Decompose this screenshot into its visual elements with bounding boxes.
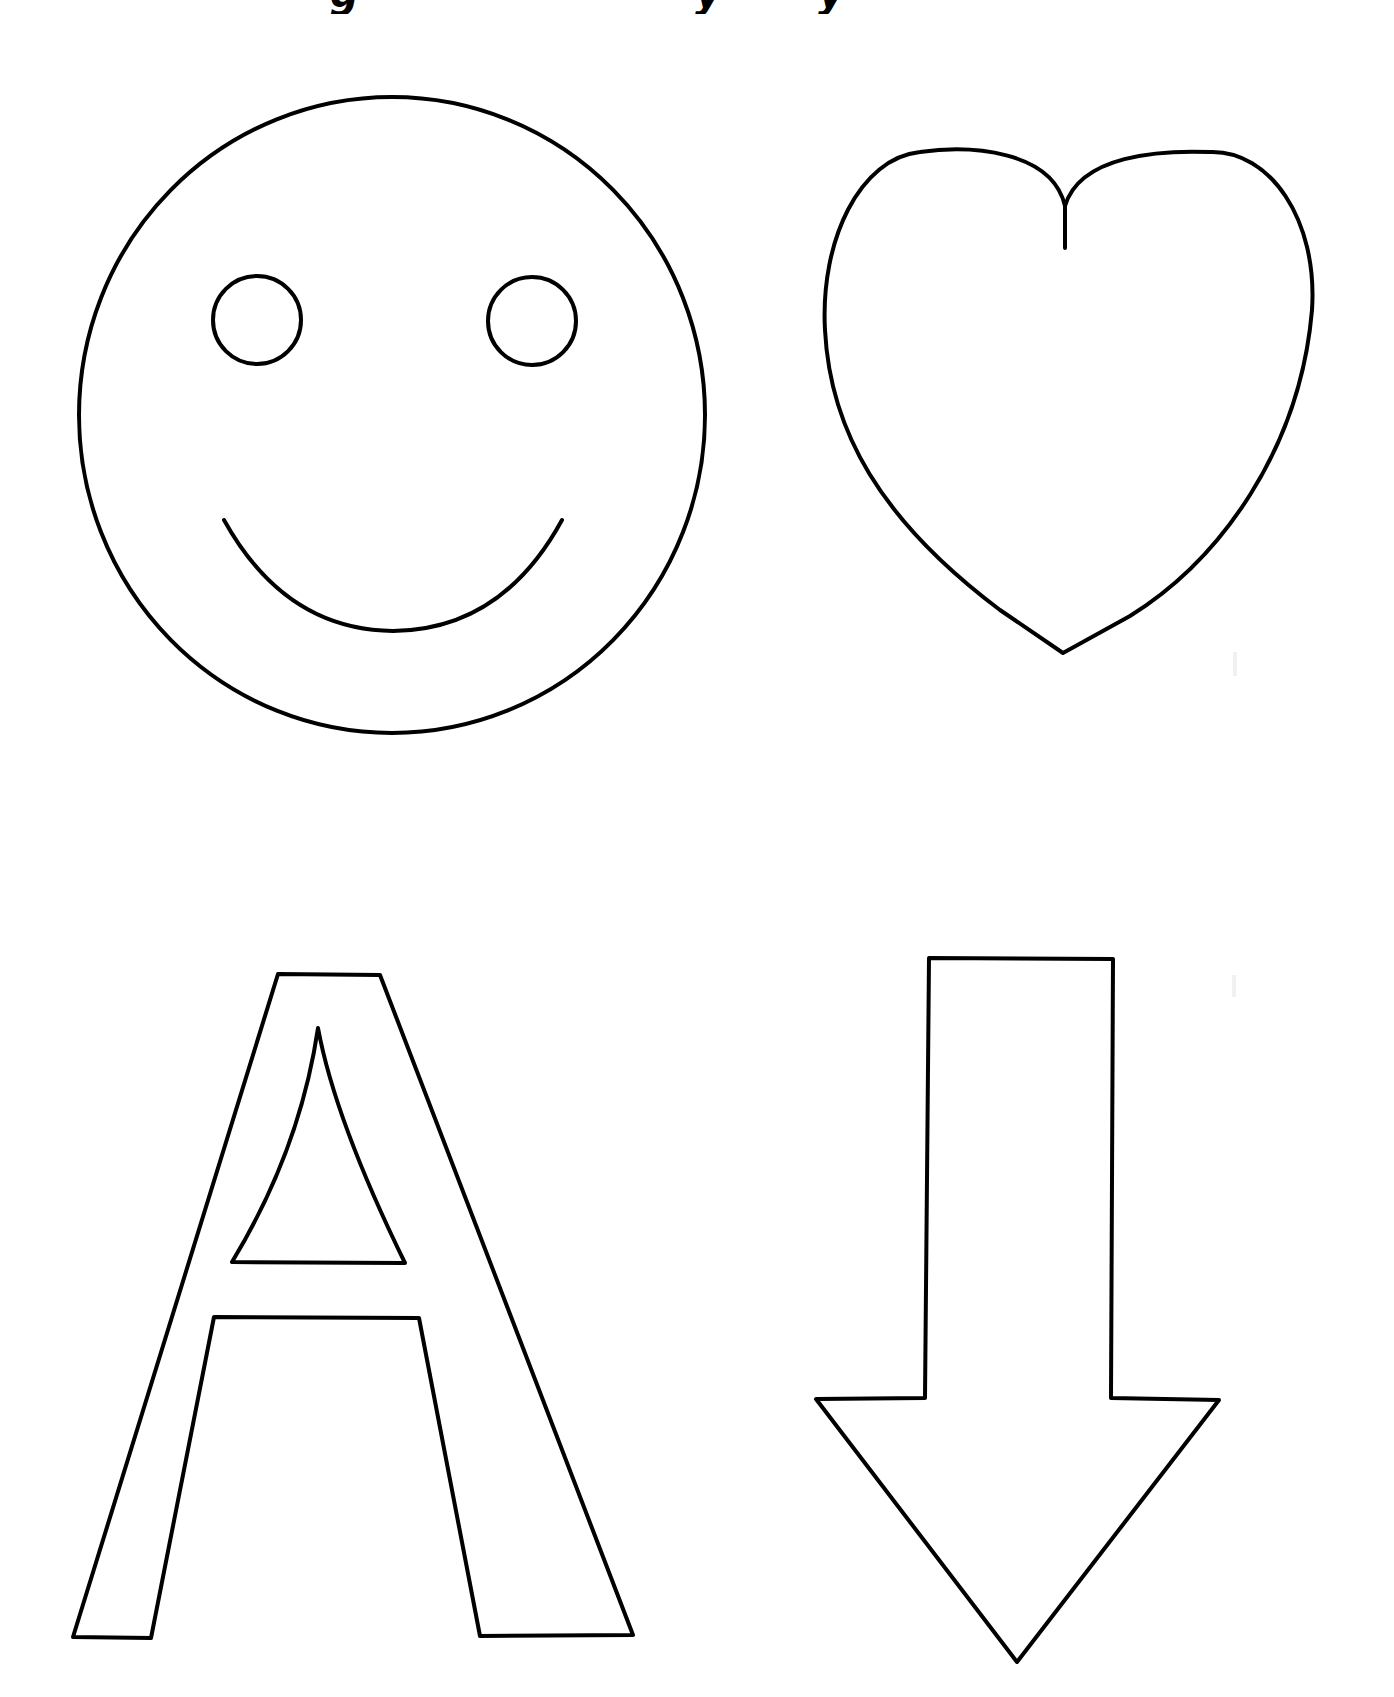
scan-artifact <box>1232 975 1236 997</box>
down-arrow-outline <box>816 958 1219 1662</box>
face-outline <box>79 97 705 733</box>
letter-a-outer <box>73 974 633 1638</box>
down-arrow-shape <box>816 958 1219 1662</box>
worksheet-page: g y y <box>0 0 1394 1697</box>
heart-shape <box>825 150 1313 653</box>
heart-outline <box>825 150 1313 653</box>
letter-a-counter <box>232 1028 405 1263</box>
smiley-face-shape <box>79 97 705 733</box>
scan-artifact <box>1233 652 1237 676</box>
smile-mouth <box>224 520 562 631</box>
letter-a-shape <box>73 974 633 1638</box>
left-eye <box>213 276 301 364</box>
right-eye <box>488 277 576 365</box>
